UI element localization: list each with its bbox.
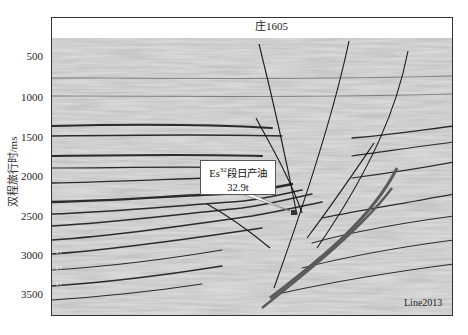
y-tick-1500: 1500: [21, 131, 43, 143]
y-tick-1000: 1000: [21, 91, 43, 103]
callout-value: 32.9t: [201, 181, 275, 195]
callout-title: Es32段日产油: [201, 163, 275, 181]
y-tick-3000: 3000: [21, 249, 43, 261]
well-label: 庄1605: [255, 17, 288, 33]
horizon-label-2: T?: [55, 264, 62, 272]
y-tick-2000: 2000: [21, 170, 43, 182]
y-tick-3500: 3500: [21, 288, 43, 300]
y-axis-title: 双程旅行时/ms: [4, 112, 20, 232]
line-label: Line2013: [404, 297, 442, 308]
y-tick-2500: 2500: [21, 210, 43, 222]
horizon-label-3: T?: [55, 280, 62, 288]
y-tick-500: 500: [27, 50, 44, 62]
production-callout: Es32段日产油 32.9t: [200, 160, 276, 195]
horizon-label-1: T?: [55, 248, 62, 256]
